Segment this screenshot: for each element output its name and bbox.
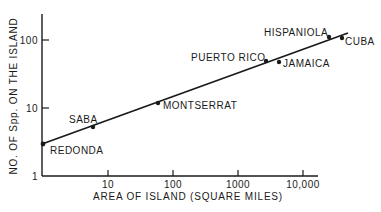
label-saba: SABA — [69, 114, 98, 125]
label-hispaniola: HISPANIOLA — [264, 27, 328, 38]
fit-line — [42, 33, 348, 144]
label-puerto-rico: PUERTO RICO — [191, 52, 266, 63]
label-cuba: CUBA — [345, 36, 375, 47]
label-jamaica: JAMAICA — [283, 58, 330, 69]
label-redonda: REDONDA — [50, 145, 104, 156]
x-tick-1000: 1000 — [226, 179, 250, 190]
point-montserrat — [156, 101, 160, 105]
point-jamaica — [277, 60, 281, 64]
y-tick-100: 100 — [20, 35, 38, 46]
y-tick-10: 10 — [26, 103, 38, 114]
x-tick-10000: 10,000 — [286, 179, 320, 190]
x-tick-100: 100 — [164, 179, 182, 190]
point-labels: REDONDA SABA MONTSERRAT PUERTO RICO JAMA… — [50, 27, 375, 156]
y-axis-label: NO. OF Spp. ON THE ISLAND — [8, 17, 19, 174]
point-saba — [91, 125, 95, 129]
y-tick-1: 1 — [32, 171, 38, 182]
y-ticks: 100 10 1 — [20, 35, 49, 182]
point-cuba — [340, 36, 344, 40]
x-tick-10: 10 — [102, 179, 114, 190]
x-axis-label: AREA OF ISLAND (SQUARE MILES) — [93, 191, 283, 202]
species-area-chart: 100 10 1 10 100 1000 10,000 AREA OF ISLA… — [0, 0, 381, 212]
x-ticks: 10 100 1000 10,000 — [102, 170, 320, 190]
label-montserrat: MONTSERRAT — [163, 100, 237, 111]
point-redonda — [41, 142, 46, 147]
